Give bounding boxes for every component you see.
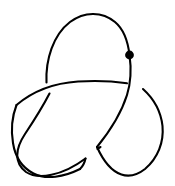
knot-figure-canvas [0,0,175,186]
basepoint-marker-dot [125,51,134,60]
figure-background [0,0,175,186]
trefoil-knot-diagram [0,0,175,186]
